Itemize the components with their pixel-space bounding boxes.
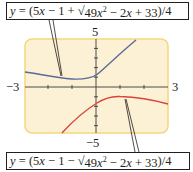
plot-panel bbox=[25, 39, 168, 133]
x-max-label: 3 bbox=[172, 80, 178, 94]
x-min-label: −3 bbox=[6, 80, 19, 94]
y-min-label: −5 bbox=[86, 136, 99, 150]
y-max-label: 5 bbox=[92, 25, 98, 39]
